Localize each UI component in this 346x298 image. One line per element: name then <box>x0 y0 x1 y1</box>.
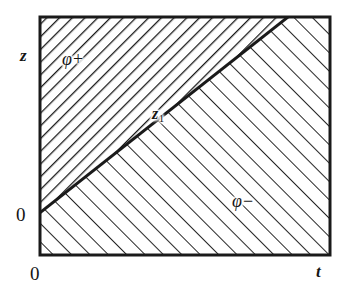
z1-subscript: 1 <box>158 112 164 124</box>
x-axis-label: t <box>316 263 321 280</box>
y-axis-label: z <box>20 47 27 64</box>
phi-minus-symbol: φ <box>232 191 242 211</box>
phi-plus-sign: + <box>72 49 83 69</box>
region-diagram-svg <box>0 0 346 298</box>
y-axis-origin-label: 0 <box>16 205 26 224</box>
phi-minus-label: φ− <box>232 192 253 210</box>
figure-container: z 0 0 t φ+ φ− z1 <box>0 0 346 298</box>
phi-plus-label: φ+ <box>62 50 83 68</box>
phi-minus-sign: − <box>242 191 253 211</box>
x-axis-origin-label: 0 <box>30 264 40 283</box>
phi-plus-symbol: φ <box>62 49 72 69</box>
z1-label: z1 <box>152 106 164 124</box>
